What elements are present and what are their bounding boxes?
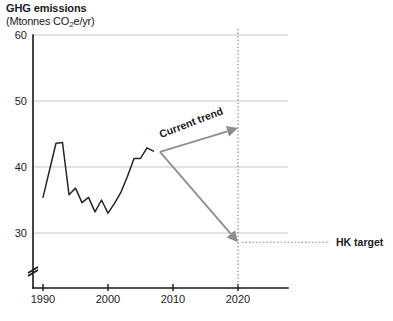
x-tick-label: 2000	[96, 293, 120, 305]
x-tick-label: 2020	[226, 293, 250, 305]
y-axis	[28, 35, 38, 288]
ghg-emissions-chart: GHG emissions (Mtonnes CO2e/yr) 30405060…	[0, 0, 393, 321]
x-tick-labels-group: 1990200020102020	[31, 293, 250, 305]
current-trend-annotation: Current trend	[157, 105, 238, 152]
hk-target-arrow-shaft	[160, 152, 231, 234]
y-tick-label: 50	[15, 95, 27, 107]
y-tick-label: 60	[15, 29, 27, 41]
hk-target-annotation: HK target	[160, 152, 384, 248]
y-tick-label: 40	[15, 161, 27, 173]
y-tick-labels-group: 30405060	[15, 29, 27, 239]
x-tick-label: 2010	[161, 293, 185, 305]
plot-area: 30405060 1990200020102020 Current trend …	[0, 0, 393, 321]
y-tick-label: 30	[15, 227, 27, 239]
hk-target-label: HK target	[336, 236, 384, 248]
current-trend-arrow-head	[226, 126, 238, 137]
x-tick-label: 1990	[31, 293, 55, 305]
emissions-data-line	[43, 143, 154, 214]
